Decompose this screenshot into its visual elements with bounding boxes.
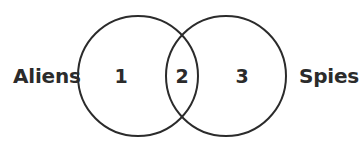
set-label-spies: Spies — [299, 66, 359, 86]
region-count-intersection: 2 — [170, 67, 194, 86]
region-count-right-only: 3 — [230, 67, 254, 86]
set-label-aliens: Aliens — [13, 66, 81, 86]
region-count-left-only: 1 — [109, 67, 133, 86]
